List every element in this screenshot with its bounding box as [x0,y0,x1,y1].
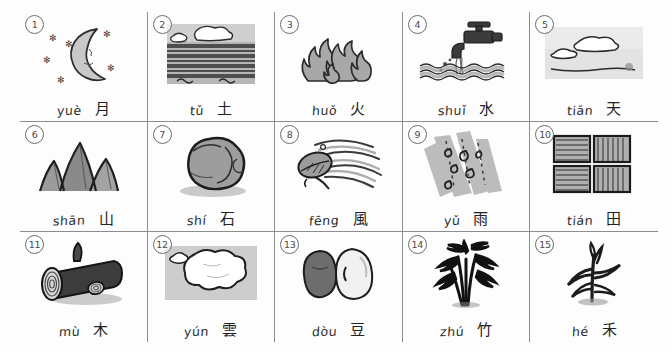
worksheet-sheet: 1 ✻✻ ✻✻ ✻✻ ✻ yuè 月 [0,0,672,352]
cell-caption: hé 禾 [530,323,658,339]
cell-number-badge: 9 [408,125,427,144]
pinyin-label: huǒ [311,103,337,119]
svg-text:✻: ✻ [43,55,51,65]
pinyin-label: tiān [567,103,594,119]
vocab-cell-cloud[interactable]: 12 yún 雲 [148,232,276,342]
cell-number-badge: 11 [25,235,44,254]
hanzi-label: 田 [606,212,621,228]
vocab-cell-wind[interactable]: 8 [275,122,403,232]
cell-number-badge: 6 [25,125,44,144]
cell-caption: fēng 風 [275,212,402,228]
vocab-cell-sky[interactable]: 5 tiān 天 [530,12,658,122]
cell-caption: shuǐ 水 [403,102,530,118]
vocab-cell-wood[interactable]: 11 [20,232,148,342]
cell-caption: tiān 天 [530,102,658,118]
cell-number-badge: 12 [153,235,172,254]
pinyin-label: hé [571,324,589,339]
svg-text:✻: ✻ [49,33,57,43]
hanzi-label: 水 [479,102,494,118]
pinyin-label: fēng [309,213,340,229]
hanzi-label: 月 [95,102,110,118]
hanzi-label: 火 [350,102,365,118]
cell-caption: shān 山 [20,212,147,228]
cell-number-badge: 2 [153,15,172,34]
pinyin-label: yuè [56,103,82,119]
pinyin-label: zhú [440,324,465,340]
hanzi-label: 天 [606,102,621,118]
cell-number-badge: 4 [408,15,427,34]
pinyin-label: tián [567,213,594,229]
cell-caption: mù 木 [20,323,147,339]
svg-text:✻: ✻ [107,63,115,73]
pinyin-label: dòu [311,324,337,340]
vocab-cell-rain[interactable]: 9 [403,122,531,232]
hanzi-label: 雲 [222,323,237,339]
hanzi-label: 竹 [477,323,492,339]
vocab-cell-field[interactable]: 10 [530,122,658,232]
hanzi-label: 山 [99,212,114,228]
vocab-cell-soil[interactable]: 2 [148,12,276,122]
cell-caption: zhú 竹 [403,323,530,339]
vocab-cell-water[interactable]: 4 [403,12,531,122]
vocab-cell-fire[interactable]: 3 huǒ 火 [275,12,403,122]
cell-caption: huǒ 火 [275,102,402,118]
pinyin-label: yǔ [443,213,460,228]
cell-caption: tǔ 土 [148,102,275,118]
vocab-cell-bean[interactable]: 13 dòu 豆 [275,232,403,342]
cell-number-badge: 1 [25,15,44,34]
pinyin-label: shuǐ [437,103,466,119]
cell-number-badge: 14 [408,235,427,254]
vocab-cell-bamboo[interactable]: 14 [403,232,531,342]
cell-caption: yuè 月 [20,102,147,118]
svg-text:✻: ✻ [103,29,111,39]
pinyin-label: shí [187,213,208,229]
hanzi-label: 土 [217,102,232,118]
cell-caption: tián 田 [530,212,658,228]
cell-caption: yún 雲 [148,323,275,339]
vocab-cell-grain[interactable]: 15 hé 禾 [530,232,658,342]
vocab-cell-stone[interactable]: 7 shí 石 [148,122,276,232]
pinyin-label: mù [58,324,80,340]
cell-number-badge: 7 [153,125,172,144]
vocab-cell-mountain[interactable]: 6 shān 山 [20,122,148,232]
hanzi-label: 石 [220,212,235,228]
cell-caption: dòu 豆 [275,323,402,339]
svg-text:✻: ✻ [57,75,65,85]
vocabulary-grid: 1 ✻✻ ✻✻ ✻✻ ✻ yuè 月 [20,12,658,342]
pinyin-label: yún [184,324,210,340]
hanzi-label: 木 [93,323,108,339]
hanzi-label: 禾 [602,323,617,339]
hanzi-label: 風 [353,212,368,228]
cell-caption: yǔ 雨 [403,212,530,228]
hanzi-label: 雨 [473,212,488,228]
pinyin-label: shān [53,213,86,229]
hanzi-label: 豆 [350,323,365,339]
pinyin-label: tǔ [189,103,204,118]
vocab-cell-moon[interactable]: 1 ✻✻ ✻✻ ✻✻ ✻ yuè 月 [20,12,148,122]
cell-caption: shí 石 [148,212,275,228]
